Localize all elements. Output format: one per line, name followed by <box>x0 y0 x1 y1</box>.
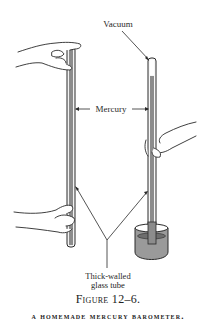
mercury-dish <box>135 222 168 260</box>
glass-tube-arrowhead-left <box>75 186 79 191</box>
mercury-label: Mercury <box>96 104 127 114</box>
vacuum-arrow <box>122 31 149 60</box>
glass-tube-label-line2: glass tube <box>0 280 216 290</box>
vacuum-label: Vacuum <box>103 19 133 29</box>
mercury-arrowhead-left <box>75 107 79 111</box>
figure-number: Figure 12–6. <box>0 292 216 307</box>
figure-title: A HOMEMADE MERCURY BAROMETER. <box>0 311 216 321</box>
vacuum-space <box>150 60 154 75</box>
glass-tube-label-text: glass tube <box>91 280 125 290</box>
bottom-left-hand <box>14 205 75 233</box>
